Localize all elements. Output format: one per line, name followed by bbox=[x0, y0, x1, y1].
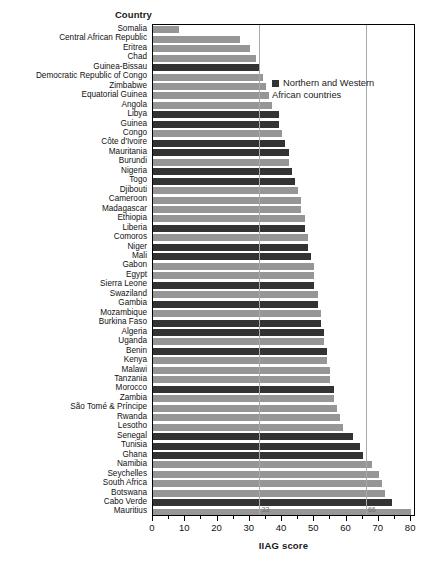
bar-fill bbox=[153, 102, 272, 109]
bar-fill bbox=[153, 471, 379, 478]
bar bbox=[153, 490, 385, 497]
category-label: Morocco bbox=[0, 384, 147, 392]
bar bbox=[153, 197, 301, 204]
category-label: Libya bbox=[0, 110, 147, 118]
bar-fill bbox=[153, 301, 318, 308]
x-tick bbox=[346, 516, 347, 521]
bar-fill bbox=[153, 461, 372, 468]
category-label: Madagascar bbox=[0, 205, 147, 213]
y-axis-title: Country bbox=[0, 9, 152, 20]
bar bbox=[153, 376, 330, 383]
bar-fill bbox=[153, 443, 360, 450]
x-tick bbox=[378, 516, 379, 521]
bar bbox=[153, 178, 295, 185]
category-label: Congo bbox=[0, 129, 147, 137]
x-tick bbox=[313, 516, 314, 521]
bar-fill bbox=[153, 433, 353, 440]
bar bbox=[153, 480, 382, 487]
legend: Northern and Western African countries bbox=[272, 78, 392, 101]
bar-fill bbox=[153, 36, 240, 43]
bar bbox=[153, 405, 337, 412]
bar bbox=[153, 234, 308, 241]
x-tick bbox=[152, 516, 153, 521]
bar bbox=[153, 471, 379, 478]
bar bbox=[153, 74, 263, 81]
bar-fill bbox=[153, 490, 385, 497]
x-minor-tick bbox=[265, 516, 266, 519]
category-label: Djibouti bbox=[0, 186, 147, 194]
bar-fill bbox=[153, 499, 392, 506]
bar bbox=[153, 320, 321, 327]
bar bbox=[153, 92, 269, 99]
reference-line-label: 66 bbox=[367, 506, 376, 514]
category-label: Egypt bbox=[0, 271, 147, 279]
bar-fill bbox=[153, 206, 301, 213]
category-label: Mali bbox=[0, 252, 147, 260]
bar bbox=[153, 443, 360, 450]
bar bbox=[153, 26, 179, 33]
bar bbox=[153, 102, 272, 109]
bar-fill bbox=[153, 168, 292, 175]
category-label: Chad bbox=[0, 53, 147, 61]
x-tick bbox=[184, 516, 185, 521]
category-label: Angola bbox=[0, 101, 147, 109]
category-label: Botswana bbox=[0, 489, 147, 497]
x-minor-tick bbox=[168, 516, 169, 519]
x-tick-label: 50 bbox=[308, 522, 319, 533]
bar bbox=[153, 140, 285, 147]
category-label: Equatorial Guinea bbox=[0, 91, 147, 99]
bar bbox=[153, 338, 324, 345]
category-label: Eritrea bbox=[0, 44, 147, 52]
category-label: Liberia bbox=[0, 224, 147, 232]
bar bbox=[153, 395, 334, 402]
bar bbox=[153, 433, 353, 440]
x-tick-label: 0 bbox=[149, 522, 154, 533]
category-label: Cameroon bbox=[0, 195, 147, 203]
bar-fill bbox=[153, 386, 334, 393]
category-label: Somalia bbox=[0, 25, 147, 33]
category-label: Lesotho bbox=[0, 422, 147, 430]
bar bbox=[153, 272, 314, 279]
bar-fill bbox=[153, 367, 330, 374]
bar-fill bbox=[153, 480, 382, 487]
category-label: Democratic Republic of Congo bbox=[0, 72, 147, 80]
bar-fill bbox=[153, 357, 327, 364]
bar bbox=[153, 424, 343, 431]
bar bbox=[153, 159, 289, 166]
bar bbox=[153, 244, 308, 251]
category-label: Central African Republic bbox=[0, 34, 147, 42]
bar-fill bbox=[153, 159, 289, 166]
bar bbox=[153, 215, 305, 222]
x-tick-label: 80 bbox=[405, 522, 416, 533]
x-tick-label: 40 bbox=[276, 522, 287, 533]
bar-fill bbox=[153, 329, 324, 336]
bar bbox=[153, 461, 372, 468]
category-label: Namibia bbox=[0, 460, 147, 468]
bar-fill bbox=[153, 64, 259, 71]
bar-fill bbox=[153, 197, 301, 204]
category-label: Mozambique bbox=[0, 309, 147, 317]
bar-fill bbox=[153, 130, 282, 137]
bar-fill bbox=[153, 55, 256, 62]
category-label: Swaziland bbox=[0, 290, 147, 298]
x-axis-title: IIAG score bbox=[152, 540, 415, 551]
x-tick bbox=[281, 516, 282, 521]
category-label: Rwanda bbox=[0, 413, 147, 421]
bar-fill bbox=[153, 282, 314, 289]
category-label: Senegal bbox=[0, 432, 147, 440]
bar-fill bbox=[153, 45, 250, 52]
bar bbox=[153, 452, 363, 459]
bar-fill bbox=[153, 348, 327, 355]
bar-fill bbox=[153, 234, 308, 241]
bar bbox=[153, 187, 298, 194]
bar bbox=[153, 64, 259, 71]
category-label: Guinea-Bissau bbox=[0, 63, 147, 71]
x-tick-label: 70 bbox=[373, 522, 384, 533]
category-label: Togo bbox=[0, 176, 147, 184]
bar bbox=[153, 301, 318, 308]
x-tick bbox=[217, 516, 218, 521]
category-label: Mauritius bbox=[0, 507, 147, 515]
bar-fill bbox=[153, 187, 298, 194]
bar bbox=[153, 225, 305, 232]
bar bbox=[153, 168, 292, 175]
